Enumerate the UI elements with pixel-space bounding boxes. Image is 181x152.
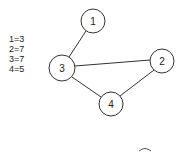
node-3: 3 [49, 55, 75, 81]
node-1: 1 [81, 9, 105, 33]
edge-3-2 [75, 60, 150, 66]
edge-1-3 [69, 31, 86, 57]
node-label: 3 [59, 63, 65, 74]
edges [69, 31, 154, 97]
node-label: 1 [90, 16, 96, 27]
graph-diagram: 1 2 3 4 [0, 0, 181, 152]
partial-circle-arc [139, 149, 151, 152]
node-label: 4 [108, 99, 114, 110]
node-4: 4 [99, 92, 123, 116]
node-2: 2 [150, 49, 174, 73]
edge-2-4 [120, 70, 154, 96]
node-label: 2 [159, 56, 165, 67]
edge-3-4 [72, 77, 101, 97]
